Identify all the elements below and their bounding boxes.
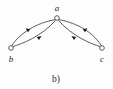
figure-caption: b) bbox=[52, 74, 60, 85]
node-a[interactable] bbox=[55, 16, 60, 21]
node-label-a: a bbox=[55, 3, 60, 13]
node-label-b: b bbox=[9, 54, 14, 64]
directed-graph-svg: a b c b) bbox=[0, 0, 113, 89]
edge-b-to-a bbox=[13, 20, 56, 46]
edge-c-to-a bbox=[58, 20, 100, 46]
figure-container: a b c b) bbox=[0, 0, 113, 89]
node-b[interactable] bbox=[9, 46, 14, 51]
edge-a-to-c bbox=[59, 20, 102, 46]
node-c[interactable] bbox=[100, 46, 105, 51]
edge-a-to-b bbox=[11, 20, 55, 46]
node-label-c: c bbox=[100, 54, 104, 64]
